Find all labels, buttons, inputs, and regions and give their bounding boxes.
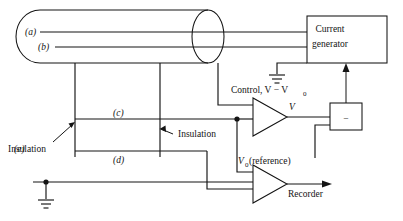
insulation-left-leader bbox=[53, 124, 73, 142]
voltage-follower-amplifier bbox=[218, 63, 330, 136]
generator-ground-lead bbox=[277, 63, 307, 74]
chamber-right-end-ellipse bbox=[192, 10, 224, 63]
figure-canvas: (a) (b) (c) (d) (e) Insulation Insulatio… bbox=[0, 0, 403, 221]
electrode-b-label: (b) bbox=[38, 42, 49, 53]
amp1-triangle bbox=[253, 98, 287, 136]
insulation-right-label: Insulation bbox=[178, 129, 216, 139]
electrode-e-ground bbox=[38, 182, 54, 208]
reference-suffix-label: (reference) bbox=[249, 156, 291, 167]
control-signal-label-group: Control, V − V 0 bbox=[231, 85, 307, 98]
junction-dot-node-c bbox=[234, 116, 239, 121]
amp1-upper-input-lead bbox=[218, 63, 253, 105]
current-generator-line1: Current bbox=[315, 24, 344, 34]
difference-amplifier-symbol: − bbox=[343, 114, 348, 124]
current-generator-ground bbox=[269, 63, 307, 83]
current-generator-line2: generator bbox=[312, 39, 349, 49]
reference-input-lead bbox=[315, 125, 330, 158]
membrane-d-to-recorder-amp bbox=[207, 151, 253, 189]
control-feedback-arrowhead bbox=[343, 63, 350, 72]
chamber-body-outline bbox=[16, 10, 208, 63]
insulation-left-pointer bbox=[53, 122, 75, 142]
insulation-right-pointer bbox=[160, 126, 174, 135]
element-d-label: (d) bbox=[113, 155, 124, 166]
schematic-svg: (a) (b) (c) (d) (e) Insulation Insulatio… bbox=[0, 0, 403, 221]
reference-label-group: V 0 (reference) bbox=[238, 156, 291, 169]
electrode-a-label: (a) bbox=[25, 27, 36, 38]
amp2-triangle bbox=[253, 165, 287, 203]
control-signal-label: Control, V − V bbox=[231, 85, 288, 95]
control-signal-subscript: 0 bbox=[303, 90, 307, 98]
difference-amplifier-block bbox=[315, 103, 362, 158]
recorder-arrowhead bbox=[322, 181, 332, 188]
element-c-label: (c) bbox=[113, 108, 124, 119]
cylindrical-chamber bbox=[16, 10, 224, 63]
insulation-left-label: Insulation bbox=[8, 144, 46, 154]
reference-v-label: V bbox=[238, 156, 245, 166]
recorder-label: Recorder bbox=[288, 189, 324, 199]
amplifier-output-v-label: V bbox=[289, 102, 296, 112]
control-feedback-path bbox=[343, 63, 350, 103]
